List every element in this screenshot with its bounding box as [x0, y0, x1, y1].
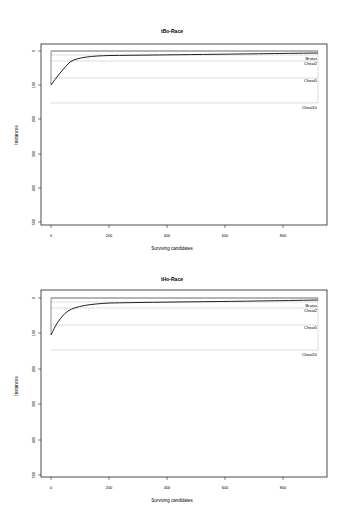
- svg-text:400: 400: [164, 233, 171, 238]
- label-cheat5: Cheat5: [304, 325, 318, 330]
- svg-text:500: 500: [31, 218, 36, 225]
- svg-text:500: 500: [31, 471, 36, 478]
- x-tick-labels: 0 200 400 600 800: [50, 485, 287, 490]
- svg-text:400: 400: [31, 436, 36, 443]
- label-cheat2: Cheat2: [304, 308, 318, 313]
- svg-text:200: 200: [31, 365, 36, 372]
- chart-tbo-race-svg: tBo-Race 0 100 200 300 400 500 Instances: [0, 0, 345, 262]
- svg-text:400: 400: [31, 184, 36, 191]
- svg-text:200: 200: [31, 115, 36, 122]
- svg-text:200: 200: [106, 233, 113, 238]
- y-axis: [38, 51, 41, 222]
- chart-tbo-race: tBo-Race 0 100 200 300 400 500 Instances: [0, 0, 345, 262]
- y-axis: [38, 298, 41, 475]
- chart-tho-race: tHo-Race 0 100 200 300 400 500 Instances: [0, 262, 345, 524]
- x-axis: [51, 477, 283, 480]
- svg-text:0: 0: [50, 233, 53, 238]
- label-cheat10: Cheat10: [302, 105, 318, 110]
- svg-text:0: 0: [31, 296, 36, 299]
- svg-text:400: 400: [164, 485, 171, 490]
- svg-text:600: 600: [222, 233, 229, 238]
- y-tick-labels: 0 100 200 300 400 500: [31, 296, 36, 478]
- race-curve: [51, 53, 318, 85]
- svg-text:300: 300: [31, 400, 36, 407]
- svg-text:600: 600: [222, 485, 229, 490]
- label-cheat5: Cheat5: [304, 78, 318, 83]
- svg-text:0: 0: [31, 49, 36, 52]
- reference-lines: [51, 51, 318, 103]
- reference-lines: [51, 298, 318, 350]
- chart-title: tBo-Race: [161, 28, 183, 34]
- reference-labels: Brutus Cheat2 Cheat5 Cheat10: [302, 303, 318, 357]
- y-axis-label: Instances: [14, 125, 19, 145]
- chart-title: tHo-Race: [161, 276, 183, 282]
- y-axis-label: Instances: [14, 376, 19, 396]
- svg-text:300: 300: [31, 150, 36, 157]
- plot-frame: [41, 290, 327, 477]
- x-axis-label: Surviving candidates: [151, 246, 193, 251]
- plot-frame: [41, 44, 327, 225]
- x-tick-labels: 0 200 400 600 800: [50, 233, 287, 238]
- svg-text:800: 800: [280, 233, 287, 238]
- x-axis-label: Surviving candidates: [151, 498, 193, 503]
- x-axis: [51, 225, 283, 228]
- svg-text:100: 100: [31, 81, 36, 88]
- svg-text:200: 200: [106, 485, 113, 490]
- svg-text:100: 100: [31, 329, 36, 336]
- svg-text:0: 0: [50, 485, 53, 490]
- chart-tho-race-svg: tHo-Race 0 100 200 300 400 500 Instances: [0, 262, 345, 524]
- svg-text:800: 800: [280, 485, 287, 490]
- label-cheat2: Cheat2: [304, 61, 318, 66]
- reference-labels: Brutus Cheat2 Cheat5 Cheat10: [302, 56, 318, 110]
- race-curve: [51, 300, 318, 335]
- label-cheat10: Cheat10: [302, 352, 318, 357]
- y-tick-labels: 0 100 200 300 400 500: [31, 49, 36, 225]
